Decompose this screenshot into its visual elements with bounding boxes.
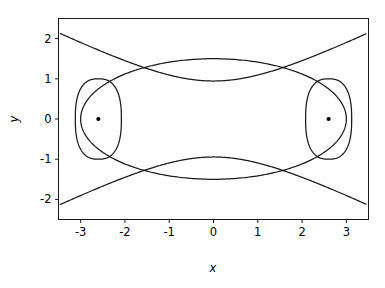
axes-frame (59, 19, 369, 220)
curve-ellipse (81, 59, 347, 180)
data-point-marker (327, 117, 331, 121)
data-curves (60, 34, 365, 205)
x-axis-label: x (209, 261, 217, 275)
y-tick-label: 2 (44, 32, 51, 46)
y-axis-ticks: -2-1012 (40, 32, 58, 207)
figure-canvas: -3-2-10123 -2-1012 x y (0, 0, 385, 288)
x-axis-ticks: -3-2-10123 (75, 220, 350, 239)
x-tick-label: 2 (298, 225, 305, 239)
curve-hyperbola-upper (60, 34, 365, 81)
y-axis-label: y (7, 115, 21, 123)
plot-area: -3-2-10123 -2-1012 x y (0, 0, 385, 288)
x-tick-label: 1 (254, 225, 261, 239)
y-tick-label: 0 (44, 112, 51, 126)
curve-hyperbola-lower (60, 157, 365, 204)
y-tick-label: -2 (40, 192, 51, 206)
x-tick-label: 3 (343, 225, 350, 239)
x-tick-label: 0 (210, 225, 217, 239)
y-tick-label: -1 (40, 152, 51, 166)
x-tick-label: -1 (163, 225, 174, 239)
data-point-marker (96, 117, 100, 121)
y-tick-label: 1 (44, 72, 51, 86)
data-points (96, 117, 330, 121)
x-tick-label: -3 (75, 225, 86, 239)
x-tick-label: -2 (119, 225, 130, 239)
